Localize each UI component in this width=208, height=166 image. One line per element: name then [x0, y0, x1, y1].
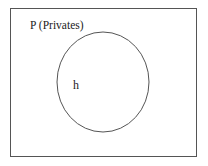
venn-diagram: P (Privates) h — [0, 0, 208, 166]
set-h-label: h — [73, 78, 79, 92]
universe-label: P (Privates) — [30, 19, 84, 32]
